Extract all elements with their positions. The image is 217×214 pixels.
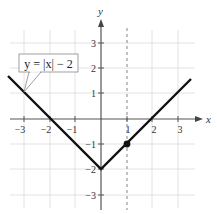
y-tick-label: −1 [85,139,96,150]
point-1-neg1 [124,141,131,148]
x-tick-label: −3 [15,124,26,135]
equation-label: y = |x| − 2 [24,57,72,71]
curve-abs-x-minus-2 [8,76,191,169]
y-axis-label: y [97,5,103,17]
y-axis [98,19,104,210]
x-tick-label: −1 [67,124,78,135]
graph: −3 −2 −1 1 2 3 x 3 2 1 −1 −2 −3 y y = |x… [0,0,217,214]
y-tick-label: 3 [91,38,96,49]
y-tick-label: −3 [85,190,96,201]
x-tick-label: 3 [178,124,183,135]
x-axis-label: x [205,113,211,125]
y-tick-label: −2 [85,164,96,175]
x-tick-label: 2 [152,124,157,135]
equation-callout: y = |x| − 2 [19,54,78,92]
x-tick-label: 1 [126,124,131,135]
y-tick-label: 1 [91,88,96,99]
x-axis [10,116,203,122]
y-tick-label: 2 [91,63,96,74]
x-tick-label: −2 [41,124,52,135]
